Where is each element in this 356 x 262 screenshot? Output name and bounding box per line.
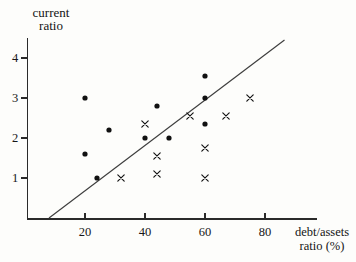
data-point-dot: [202, 73, 207, 78]
data-point-cross: [187, 113, 193, 119]
data-point-dot: [166, 135, 171, 140]
data-point-cross: [202, 145, 208, 151]
data-point-dot: [202, 121, 207, 126]
data-point-dot: [82, 151, 87, 156]
x-axis-title: debt/assets ratio (%): [292, 226, 352, 253]
data-point-cross: [142, 121, 148, 127]
data-point-dot: [82, 95, 87, 100]
plot-svg: [0, 0, 356, 262]
data-point-cross: [154, 153, 160, 159]
scatter-plot-figure: current ratio 204060801234 debt/assets r…: [0, 0, 356, 262]
x-axis-title-line1: debt/assets: [295, 225, 349, 239]
data-point-cross: [154, 171, 160, 177]
x-axis-title-line2: ratio (%): [300, 239, 345, 253]
data-point-cross: [118, 175, 124, 181]
fit-line: [49, 40, 285, 218]
data-point-dot: [106, 127, 111, 132]
data-point-dot: [154, 103, 159, 108]
data-point-dot: [142, 135, 147, 140]
data-point-cross: [202, 175, 208, 181]
data-point-cross: [247, 95, 253, 101]
data-point-dot: [202, 95, 207, 100]
data-point-cross: [223, 113, 229, 119]
data-point-dot: [94, 175, 99, 180]
